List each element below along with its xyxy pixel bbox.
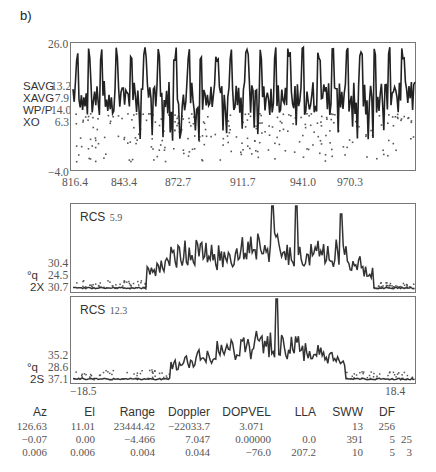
x-tick: 941.0 (290, 176, 316, 188)
side-value: 30.4 (48, 257, 68, 269)
cell: −4.466 (100, 433, 155, 445)
cell: 0.044 (150, 446, 210, 458)
cell: 0.006 (10, 446, 47, 458)
cell: 23444.42 (100, 420, 155, 432)
cell: 25 (398, 433, 412, 445)
side-name: °q (27, 361, 38, 373)
cell: 126.63 (10, 420, 47, 432)
col-header-az: Az (10, 405, 47, 419)
top-plot-frame (70, 42, 416, 171)
rcs-label: RCS (80, 210, 105, 224)
legend-name: XAVG (23, 92, 54, 104)
cell: 0.006 (60, 446, 95, 458)
panel-label: b) (20, 8, 32, 23)
cell: 256 (370, 420, 395, 432)
side-name: °q (27, 269, 38, 281)
col-header-doppler: Doppler (160, 405, 210, 419)
cell: 391 (330, 433, 363, 445)
cell: 3.071 (220, 420, 264, 432)
side-name: 2X (30, 281, 44, 293)
side-value: 28.6 (48, 361, 68, 373)
legend-value: 14.0 (51, 104, 69, 116)
rcs-value: 5.9 (110, 212, 123, 223)
col-header-dopvel: DOPVEL (220, 405, 271, 419)
rcs-label: RCS (80, 303, 105, 317)
legend-value: 6.3 (51, 116, 69, 128)
cell: −0.07 (10, 433, 47, 445)
bot-plot-title: RCS 12.3 (80, 300, 127, 318)
rcs-value: 12.3 (110, 305, 128, 316)
col-header-lla: LLA (280, 405, 316, 419)
legend-name: WP/P (23, 104, 52, 116)
x-tick: 970.3 (337, 176, 363, 188)
legend-value: 7.9 (51, 92, 69, 104)
side-value: 35.2 (48, 349, 68, 361)
x-right-tick: 18.4 (385, 385, 405, 397)
cell: 13 (330, 420, 363, 432)
side-name: 2S (30, 373, 44, 385)
cell: 0.00 (60, 433, 95, 445)
x-left-tick: −18.5 (70, 385, 97, 397)
cell: 207.2 (280, 446, 316, 458)
cell: 10 (330, 446, 363, 458)
x-tick: 911.7 (230, 176, 255, 188)
bot-plot-frame: RCS 12.3 (70, 296, 416, 384)
legend-name: SAVG (23, 80, 54, 92)
legend-value: 13.2 (51, 80, 69, 92)
side-value: 37.1 (48, 373, 68, 385)
cell: 0.004 (100, 446, 155, 458)
mid-plot-frame: RCS 5.9 (70, 203, 416, 293)
cell: 5 (370, 433, 395, 445)
cell: 5 (370, 446, 395, 458)
legend-name: XO (23, 116, 40, 128)
cell: 7.047 (150, 433, 210, 445)
side-value: 30.7 (48, 281, 68, 293)
cell: −76.0 (220, 446, 271, 458)
cell: 3 (398, 446, 412, 458)
x-tick: 843.4 (111, 176, 137, 188)
top-plot-waveform (71, 43, 417, 172)
cell: 0.00000 (220, 433, 271, 445)
cell: −22033.7 (150, 420, 210, 432)
mid-plot-waveform (71, 204, 417, 294)
col-header-range: Range (100, 405, 155, 419)
top-y-max: 26.0 (48, 38, 68, 50)
mid-plot-title: RCS 5.9 (80, 207, 122, 225)
x-tick: 816.4 (62, 176, 88, 188)
col-header-sww: SWW (330, 405, 363, 419)
cell: 11.01 (60, 420, 95, 432)
cell: 0.0 (280, 433, 316, 445)
col-header-df: DF (379, 405, 395, 419)
side-value: 24.5 (48, 269, 68, 281)
x-tick: 872.7 (165, 176, 191, 188)
col-header-el: El (60, 405, 95, 419)
